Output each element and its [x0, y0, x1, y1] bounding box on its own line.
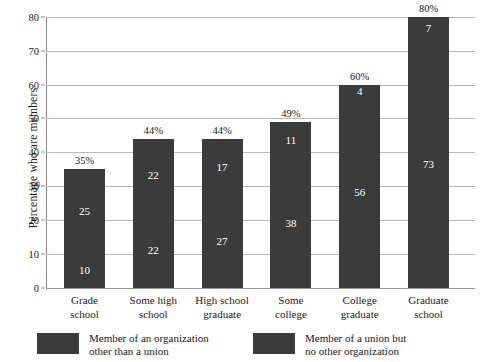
- x-axis-label-line1: Graduate: [386, 294, 472, 308]
- legend-label-organization-line1: Member of an organization: [89, 332, 209, 345]
- segment-organization-value: 4: [357, 86, 363, 97]
- y-tick-mark-20: [41, 219, 45, 220]
- segment-organization[interactable]: 25: [64, 169, 105, 254]
- segment-union-value: 73: [423, 159, 434, 170]
- bar-group[interactable]: 77380%: [408, 17, 449, 287]
- stacked-bar[interactable]: 77380%: [408, 17, 449, 287]
- y-tick-label-30: 30: [29, 181, 40, 192]
- legend-swatch-union: [253, 333, 295, 354]
- segment-organization[interactable]: 11: [270, 122, 311, 159]
- legend-label-organization: Member of an organization other than a u…: [89, 332, 209, 358]
- y-tick-mark-60: [41, 84, 45, 85]
- segment-union-value: 27: [217, 236, 228, 247]
- bar-group[interactable]: 222244%: [133, 139, 174, 288]
- y-tick-label-60: 60: [29, 79, 40, 90]
- segment-union[interactable]: 56: [339, 98, 380, 287]
- segment-organization-value: 11: [286, 135, 297, 146]
- y-tick-label-70: 70: [29, 45, 40, 56]
- legend-item-organization: Member of an organization other than a u…: [37, 332, 209, 358]
- segment-union-value: 56: [354, 187, 365, 198]
- y-tick-mark-10: [41, 253, 45, 254]
- x-axis-label: Graduateschool: [386, 294, 472, 321]
- segment-organization-value: 17: [217, 162, 228, 173]
- legend-item-union: Member of a union but no other organizat…: [253, 332, 406, 358]
- segment-organization[interactable]: 7: [408, 17, 449, 41]
- segment-union-value: 10: [79, 265, 90, 276]
- legend-label-union: Member of a union but no other organizat…: [305, 332, 406, 358]
- legend-label-union-line1: Member of a union but: [305, 332, 406, 345]
- segment-union[interactable]: 10: [64, 254, 105, 288]
- bar-group[interactable]: 251035%: [64, 169, 105, 287]
- stacked-bar[interactable]: 45660%: [339, 85, 380, 288]
- y-tick-label-80: 80: [29, 12, 40, 23]
- segment-union-value: 22: [148, 245, 159, 256]
- segment-organization[interactable]: 17: [202, 139, 243, 196]
- segment-organization-value: 7: [426, 23, 432, 34]
- bar-group[interactable]: 113849%: [270, 122, 311, 288]
- segment-organization[interactable]: 4: [339, 85, 380, 99]
- segment-union[interactable]: 22: [133, 213, 174, 287]
- segment-union[interactable]: 38: [270, 159, 311, 287]
- bar-total-label: 60%: [350, 71, 369, 82]
- y-tick-mark-30: [41, 186, 45, 187]
- plot-area: 01020304050607080 251035%222244%172744%1…: [46, 10, 475, 290]
- y-tick-label-20: 20: [29, 214, 40, 225]
- bar-total-label: 49%: [281, 108, 300, 119]
- bar-total-label: 35%: [75, 155, 94, 166]
- y-tick-mark-40: [41, 152, 45, 153]
- legend-swatch-organization: [37, 333, 79, 354]
- stacked-bar[interactable]: 113849%: [270, 122, 311, 288]
- y-tick-label-0: 0: [34, 282, 39, 293]
- segment-union[interactable]: 73: [408, 41, 449, 288]
- segment-organization-value: 25: [79, 206, 90, 217]
- gridline-0: 0: [46, 288, 475, 290]
- segment-organization[interactable]: 22: [133, 139, 174, 213]
- y-tick-mark-50: [41, 118, 45, 119]
- chart-legend: Member of an organization other than a u…: [0, 330, 485, 362]
- bar-group[interactable]: 172744%: [202, 139, 243, 288]
- segment-union-value: 38: [285, 218, 296, 229]
- bar-total-label: 80%: [419, 3, 438, 14]
- stacked-bar[interactable]: 172744%: [202, 139, 243, 288]
- bar-total-label: 44%: [212, 125, 231, 136]
- segment-organization-value: 22: [148, 170, 159, 181]
- y-tick-label-10: 10: [29, 248, 40, 259]
- legend-label-union-line2: no other organization: [305, 345, 406, 358]
- bar-total-label: 44%: [144, 125, 163, 136]
- segment-union[interactable]: 27: [202, 196, 243, 287]
- y-tick-mark-0: [41, 287, 45, 288]
- x-axis-label-line2: school: [386, 308, 472, 322]
- y-tick-label-50: 50: [29, 113, 40, 124]
- y-tick-label-40: 40: [29, 147, 40, 158]
- y-axis-line: [46, 17, 47, 290]
- stacked-bar-chart: Percentage who are members 0102030405060…: [0, 0, 485, 362]
- bar-group[interactable]: 45660%: [339, 85, 380, 288]
- y-tick-mark-80: [41, 17, 45, 18]
- stacked-bar[interactable]: 222244%: [133, 139, 174, 288]
- y-axis-title: Percentage who are members: [27, 43, 39, 273]
- y-tick-mark-70: [41, 50, 45, 51]
- stacked-bar[interactable]: 251035%: [64, 169, 105, 287]
- legend-label-organization-line2: other than a union: [89, 345, 209, 358]
